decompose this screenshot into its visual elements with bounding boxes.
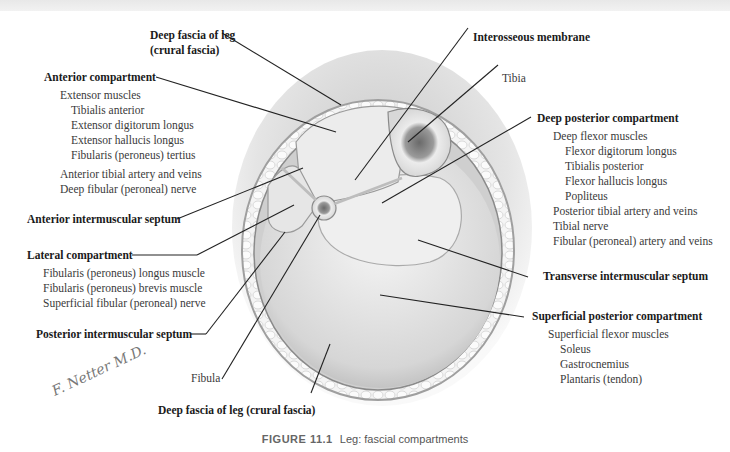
label-tibia: Tibia	[502, 71, 526, 86]
deep-posterior-muscle: Popliteus	[565, 189, 713, 204]
anterior-muscle: Fibularis (peroneus) tertius	[71, 148, 202, 163]
deep-posterior-muscle: Flexor hallucis longus	[565, 174, 713, 189]
anterior-muscle: Extensor hallucis longus	[71, 133, 202, 148]
figure-number: FIGURE 11.1	[262, 433, 333, 445]
label-anterior-compartment: Anterior compartment Extensor muscles Ti…	[44, 70, 202, 197]
label-fibula: Fibula	[191, 371, 220, 386]
label-interosseous-membrane: Interosseous membrane	[473, 30, 590, 45]
label-deep-fascia-top: Deep fascia of leg (crural fascia)	[150, 28, 235, 58]
superficial-posterior-muscle: Gastrocnemius	[560, 357, 702, 372]
label-lateral-compartment: Lateral compartment Fibularis (peroneus)…	[27, 248, 206, 311]
deep-posterior-muscle: Flexor digitorum longus	[565, 144, 713, 159]
figure-caption: FIGURE 11.1 Leg: fascial compartments	[0, 433, 730, 445]
label-deep-posterior-compartment: Deep posterior compartment Deep flexor m…	[537, 111, 713, 249]
label-superficial-posterior-compartment: Superficial posterior compartment Superf…	[532, 309, 702, 387]
deep-posterior-muscle: Tibialis posterior	[565, 159, 713, 174]
superficial-posterior-muscle: Soleus	[560, 342, 702, 357]
anterior-muscle: Tibialis anterior	[71, 103, 202, 118]
label-anterior-intermuscular-septum: Anterior intermuscular septum	[27, 212, 181, 227]
superficial-posterior-muscle: Plantaris (tendon)	[560, 372, 702, 387]
label-deep-fascia-bottom: Deep fascia of leg (crural fascia)	[158, 403, 315, 418]
label-transverse-intermuscular-septum: Transverse intermuscular septum	[543, 269, 708, 284]
anterior-muscle: Extensor digitorum longus	[71, 118, 202, 133]
figure-title: Leg: fascial compartments	[340, 433, 468, 445]
label-posterior-intermuscular-septum: Posterior intermuscular septum	[36, 327, 192, 342]
